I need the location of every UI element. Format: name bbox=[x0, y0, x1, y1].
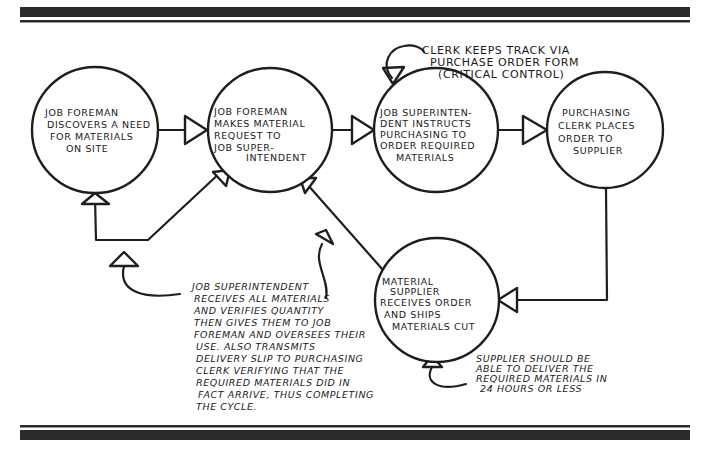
leader-supplier-note bbox=[430, 367, 466, 387]
top-thick-rule bbox=[20, 7, 690, 17]
process-diagram: Job Foreman Discovers a need for Materia… bbox=[0, 0, 704, 452]
node-label: Job Superinten- bbox=[379, 107, 472, 118]
bottom-thick-rule bbox=[20, 430, 690, 440]
bottom-thin-rule bbox=[20, 425, 690, 428]
note-line: Job Superintendent bbox=[190, 281, 310, 292]
node-label: order Required bbox=[380, 140, 475, 151]
edge-n4-n5 bbox=[499, 188, 607, 300]
node-label: Supplier bbox=[573, 145, 623, 156]
note-line: Foreman and oversees their bbox=[194, 329, 366, 340]
node-label: intendent bbox=[246, 152, 306, 163]
node-label: Order to bbox=[558, 133, 613, 144]
superintendent-note: Job Superintendent Receives all material… bbox=[190, 281, 374, 412]
node-label: Clerk Places bbox=[558, 120, 635, 131]
note-arrow-up-icon bbox=[316, 230, 333, 244]
note-line: required materials did in bbox=[196, 377, 350, 388]
node-label: on Site bbox=[66, 143, 108, 154]
node-label: Receives Order bbox=[380, 297, 472, 308]
arrow-right-icon bbox=[352, 116, 374, 144]
node-job-foreman-discovers: Job Foreman Discovers a need for Materia… bbox=[32, 67, 158, 193]
arrow-right-icon bbox=[185, 116, 207, 144]
node-label: Request to bbox=[214, 130, 281, 141]
note-line: then gives them to Job bbox=[194, 317, 331, 328]
node-label: Materials bbox=[396, 152, 454, 163]
note-line: 24 hours or less bbox=[480, 383, 582, 394]
node-label: Purchasing bbox=[562, 107, 630, 118]
node-purchasing-clerk: Purchasing Clerk Places Order to Supplie… bbox=[547, 72, 663, 188]
note-line: use. Also transmits bbox=[196, 341, 316, 352]
leader-superintendent-to-edge bbox=[319, 244, 327, 298]
node-label: Purchasing to bbox=[380, 129, 467, 140]
note-line: the cycle. bbox=[196, 401, 257, 412]
note-line: Clerk verifying that the bbox=[196, 365, 344, 376]
clerk-control-note: Clerk keeps track via Purchase order for… bbox=[422, 44, 579, 81]
node-superintendent-instructs: Job Superinten- dent instructs Purchasin… bbox=[374, 68, 498, 192]
note-line: fact arrive, thus completing bbox=[198, 389, 374, 400]
node-label: Job Foreman bbox=[213, 106, 288, 117]
note-line: delivery slip to Purchasing bbox=[196, 353, 364, 364]
note-line: Receives all materials bbox=[194, 293, 330, 304]
supplier-delivery-note: Supplier should be able to deliver the r… bbox=[475, 353, 607, 394]
node-label: Materials Cut bbox=[392, 321, 475, 332]
node-label: Makes Material bbox=[214, 118, 305, 129]
node-job-foreman-request: Job Foreman Makes Material Request to Jo… bbox=[208, 68, 332, 192]
node-label: Supplier bbox=[390, 286, 440, 297]
note-arrow-up-icon bbox=[110, 252, 138, 266]
node-label: and Ships bbox=[384, 309, 441, 320]
node-label: Discovers a need bbox=[47, 119, 151, 130]
note-line: (Critical Control) bbox=[438, 68, 564, 81]
node-label: dent instructs bbox=[380, 118, 471, 129]
node-label: for Materials bbox=[50, 131, 133, 142]
connectors bbox=[95, 130, 607, 300]
note-line: and verifies quantity bbox=[193, 305, 325, 316]
leader-superintendent-to-branch bbox=[123, 266, 180, 296]
arrow-left-icon bbox=[498, 288, 517, 312]
node-label: Job Foreman bbox=[44, 107, 119, 118]
arrow-up-icon bbox=[82, 193, 109, 204]
arrow-right-icon bbox=[523, 116, 547, 144]
top-thin-rule bbox=[20, 20, 690, 23]
node-material-supplier: Material Supplier Receives Order and Shi… bbox=[375, 238, 499, 362]
